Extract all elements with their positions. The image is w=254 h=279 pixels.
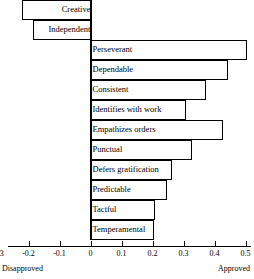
bar-chart: CreativeIndependentPerseverantDependable… [0, 0, 253, 279]
bar-row: Creative [0, 0, 253, 20]
bar-row: Independent [0, 20, 253, 40]
x-axis-tick [91, 241, 92, 247]
bar-label: Predictable [93, 180, 131, 200]
axis-label-approved: Approved [218, 264, 250, 273]
x-axis-tick-label: -0.2 [14, 249, 44, 258]
x-axis-tick [184, 241, 185, 247]
bar-label: Defers gratification [93, 160, 159, 180]
x-axis-tick-label: 0.4 [200, 249, 230, 258]
bar-row: Punctual [0, 140, 253, 160]
x-axis-tick-label: 0.1 [107, 249, 137, 258]
bar-row: Temperamental [0, 220, 253, 240]
bar-row: Identifies with work [0, 100, 253, 120]
bar-row: Defers gratification [0, 160, 253, 180]
bar-label: Temperamental [93, 220, 146, 240]
bar-label: Punctual [93, 140, 123, 160]
x-axis: Disapproved Approved -0.3-0.2-0.100.10.2… [0, 240, 253, 279]
x-axis-tick-label: 0.3 [169, 249, 199, 258]
bar-row: Consistent [0, 80, 253, 100]
bar-label: Consistent [93, 80, 129, 100]
bar-label: Empathizes orders [93, 120, 156, 140]
bar-row: Predictable [0, 180, 253, 200]
x-axis-tick [29, 241, 30, 247]
x-axis-tick-label: 0.5 [231, 249, 254, 258]
x-axis-tick-label: -0.1 [45, 249, 75, 258]
x-axis-tick [122, 241, 123, 247]
bar-label: Independent [33, 20, 90, 40]
bar-label: Dependable [93, 60, 134, 80]
bar-label: Creative [22, 0, 90, 20]
bar-row: Dependable [0, 60, 253, 80]
axis-label-disapproved: Disapproved [2, 264, 43, 273]
x-axis-tick-label: 0 [76, 249, 106, 258]
bar-row: Tactful [0, 200, 253, 220]
x-axis-tick [215, 241, 216, 247]
bar-row: Perseverant [0, 40, 253, 60]
x-axis-tick-label: 0.2 [138, 249, 168, 258]
x-axis-tick [153, 241, 154, 247]
x-axis-tick [60, 241, 61, 247]
x-axis-tick [246, 241, 247, 247]
bar-label: Tactful [93, 200, 117, 220]
bar-label: Perseverant [93, 40, 133, 60]
x-axis-tick-label: -0.3 [0, 249, 13, 258]
plot-area: CreativeIndependentPerseverantDependable… [0, 0, 253, 240]
bar-row: Empathizes orders [0, 120, 253, 140]
bar-label: Identifies with work [93, 100, 162, 120]
